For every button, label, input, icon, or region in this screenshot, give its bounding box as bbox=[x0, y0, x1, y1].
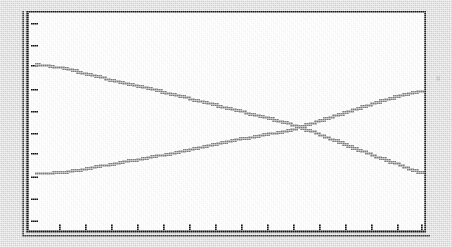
chart-screenshot bbox=[0, 0, 452, 247]
chart-svg bbox=[29, 13, 429, 235]
x-axis-tick-group bbox=[60, 224, 422, 231]
series-line-ascending bbox=[35, 90, 422, 173]
frame-outer-left-rule bbox=[22, 11, 24, 237]
chart-plot-frame bbox=[26, 11, 426, 233]
frame-outer-bottom-rule bbox=[22, 235, 430, 237]
y-axis-tick-group bbox=[31, 24, 38, 221]
plot-area bbox=[29, 13, 424, 230]
series-line-descending bbox=[35, 64, 422, 174]
scan-artifact-speck bbox=[436, 76, 440, 81]
